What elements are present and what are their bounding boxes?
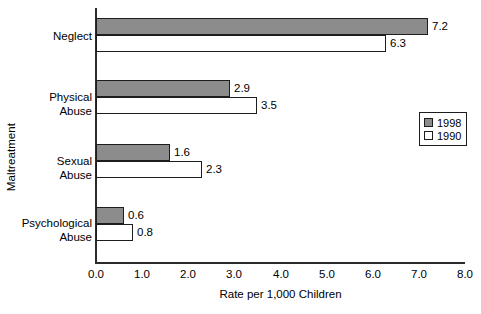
x-tick-5: 5.0 [319, 268, 335, 280]
bar-physical-abuse-1998 [96, 80, 230, 97]
bar-chart: Maltreatment Neglect Physical Abuse Sexu… [0, 0, 481, 314]
x-tick-6: 6.0 [365, 268, 381, 280]
category-label-neglect: Neglect [6, 30, 92, 44]
bar-psychological-abuse-1990 [96, 224, 133, 241]
bar-value-sexual-abuse-1998: 1.6 [174, 144, 190, 161]
bar-neglect-1990 [96, 35, 386, 52]
legend-label-1990: 1990 [437, 130, 461, 142]
x-tick-2: 2.0 [180, 268, 196, 280]
legend-swatch-1990-icon [424, 131, 433, 140]
x-tick-4: 4.0 [273, 268, 289, 280]
bar-value-psychological-abuse-1990: 0.8 [137, 224, 153, 241]
bar-value-physical-abuse-1998: 2.9 [234, 80, 250, 97]
bar-neglect-1998 [96, 18, 428, 35]
category-label-psychological-abuse: Psychological Abuse [6, 217, 92, 244]
bar-psychological-abuse-1998 [96, 207, 124, 224]
legend: 1998 1990 [419, 112, 467, 146]
category-label-list: Neglect Physical Abuse Sexual Abuse Psyc… [0, 0, 92, 264]
bar-value-neglect-1998: 7.2 [432, 18, 448, 35]
bar-value-psychological-abuse-1998: 0.6 [128, 207, 144, 224]
x-tick-8: 8.0 [457, 268, 473, 280]
bar-physical-abuse-1990 [96, 97, 257, 114]
legend-swatch-1998-icon [424, 118, 433, 127]
x-axis-line [95, 262, 465, 264]
x-tick-7: 7.0 [411, 268, 427, 280]
legend-entry-1990: 1990 [424, 129, 461, 142]
bar-value-sexual-abuse-1990: 2.3 [206, 161, 222, 178]
x-tick-1: 1.0 [134, 268, 150, 280]
bar-value-neglect-1990: 6.3 [390, 35, 406, 52]
category-label-sexual-abuse: Sexual Abuse [6, 155, 92, 182]
bar-sexual-abuse-1990 [96, 161, 202, 178]
bar-sexual-abuse-1998 [96, 144, 170, 161]
legend-entry-1998: 1998 [424, 116, 461, 129]
plot-area: 7.2 6.3 2.9 3.5 1.6 2.3 0.6 0.8 [96, 8, 465, 263]
x-tick-0: 0.0 [88, 268, 104, 280]
legend-label-1998: 1998 [437, 117, 461, 129]
x-tick-3: 3.0 [226, 268, 242, 280]
x-axis-title: Rate per 1,000 Children [96, 288, 465, 300]
category-label-physical-abuse: Physical Abuse [6, 91, 92, 118]
bar-value-physical-abuse-1990: 3.5 [261, 97, 277, 114]
